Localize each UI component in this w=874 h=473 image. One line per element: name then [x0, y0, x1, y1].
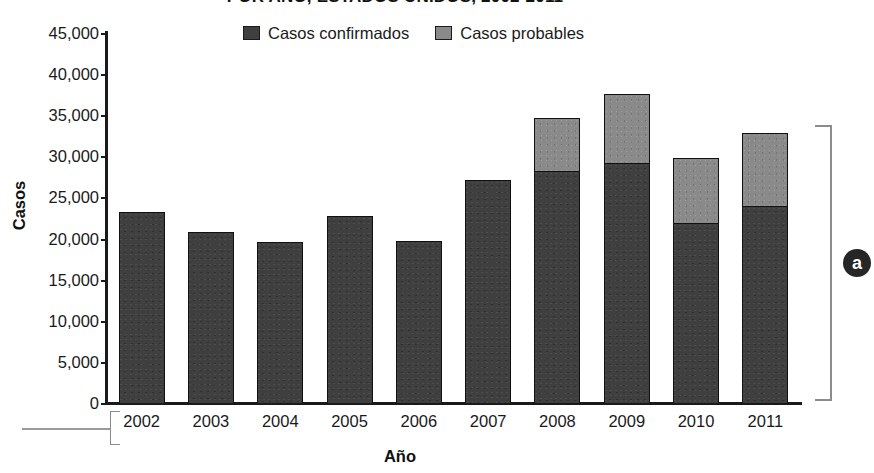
- bar-segment-confirmed[interactable]: [673, 223, 719, 403]
- bar-segment-confirmed[interactable]: [465, 180, 511, 403]
- bar-segment-confirmed[interactable]: [188, 232, 234, 403]
- y-tick-label: 5,000: [58, 354, 99, 371]
- plot-area: [107, 33, 800, 403]
- bar-segment-confirmed[interactable]: [396, 241, 442, 403]
- x-axis-title: Año: [0, 447, 800, 466]
- x-tick-label: 2008: [523, 412, 592, 431]
- bottom-divider-rule: [22, 428, 110, 430]
- chart-figure: POR AÑO, ESTADOS UNIDOS, 2002-2011 Casos…: [0, 0, 874, 473]
- x-tick-label: 2005: [315, 412, 384, 431]
- bar-segment-confirmed[interactable]: [327, 216, 373, 403]
- chart-title: POR AÑO, ESTADOS UNIDOS, 2002-2011: [0, 0, 790, 6]
- bar-segment-probable[interactable]: [604, 94, 650, 163]
- y-tick-mark: [101, 33, 106, 35]
- y-tick-label: 25,000: [49, 189, 99, 206]
- x-tick-label: 2009: [592, 412, 661, 431]
- bar-group[interactable]: [534, 118, 580, 403]
- y-tick-mark: [101, 403, 106, 405]
- x-tick-label: 2006: [384, 412, 453, 431]
- y-tick-label: 30,000: [49, 148, 99, 165]
- bar-segment-probable[interactable]: [742, 133, 788, 205]
- panel-bracket: [815, 125, 832, 401]
- bar-segment-confirmed[interactable]: [534, 171, 580, 403]
- y-tick-label: 45,000: [49, 25, 99, 42]
- x-tick-label: 2010: [661, 412, 730, 431]
- bottom-left-bracket: [110, 411, 120, 445]
- panel-badge: a: [843, 249, 871, 277]
- bar-segment-confirmed[interactable]: [604, 163, 650, 403]
- bar-group[interactable]: [465, 180, 511, 403]
- bar-group[interactable]: [257, 242, 303, 403]
- y-tick-label: 10,000: [49, 313, 99, 330]
- y-tick-label: 0: [90, 395, 99, 412]
- bar-group[interactable]: [119, 212, 165, 403]
- bar-segment-confirmed[interactable]: [742, 206, 788, 403]
- y-tick-mark: [101, 321, 106, 323]
- y-tick-mark: [101, 115, 106, 117]
- y-tick-mark: [101, 156, 106, 158]
- bar-group[interactable]: [188, 232, 234, 403]
- bar-group[interactable]: [396, 241, 442, 403]
- bar-segment-confirmed[interactable]: [257, 242, 303, 403]
- bar-group[interactable]: [673, 158, 719, 403]
- y-axis-title: Casos: [10, 161, 29, 251]
- y-tick-mark: [101, 362, 106, 364]
- x-tick-label: 2004: [246, 412, 315, 431]
- y-tick-label: 40,000: [49, 66, 99, 83]
- bar-group[interactable]: [327, 216, 373, 403]
- bar-group[interactable]: [604, 94, 650, 403]
- y-tick-mark: [101, 197, 106, 199]
- y-tick-mark: [101, 239, 106, 241]
- x-tick-label: 2011: [731, 412, 800, 431]
- bar-segment-probable[interactable]: [673, 158, 719, 223]
- y-tick-mark: [101, 74, 106, 76]
- y-tick-label: 35,000: [49, 107, 99, 124]
- bar-segment-confirmed[interactable]: [119, 212, 165, 403]
- x-tick-label: 2003: [176, 412, 245, 431]
- bar-group[interactable]: [742, 133, 788, 403]
- y-tick-label: 20,000: [49, 231, 99, 248]
- y-tick-mark: [101, 280, 106, 282]
- bar-segment-probable[interactable]: [534, 118, 580, 171]
- x-tick-label: 2007: [454, 412, 523, 431]
- y-tick-label: 15,000: [49, 272, 99, 289]
